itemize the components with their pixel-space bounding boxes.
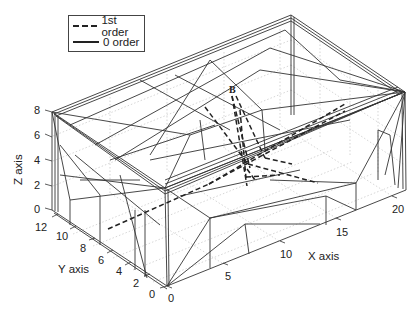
3d-plot: B 0 5 10 15 20 0 2 4 6 8 10 12 0	[0, 0, 419, 316]
solid-line-swatch	[73, 41, 99, 43]
x-tick: 15	[336, 226, 348, 238]
z-tick: 0	[34, 203, 40, 215]
z-tick: 2	[34, 179, 40, 191]
annotation-b: B	[229, 84, 236, 95]
y-tick: 0	[149, 288, 155, 300]
y-tick: 12	[35, 221, 47, 233]
z-tick-labels: 0 2 4 6 8	[34, 104, 40, 215]
legend-item-zero-order: 0 order	[73, 34, 139, 50]
x-tick: 10	[280, 248, 292, 260]
y-tick: 10	[56, 230, 68, 242]
grid-lines	[53, 28, 405, 282]
legend: 1st order 0 order	[68, 15, 145, 52]
x-axis-label: X axis	[308, 250, 340, 262]
x-tick: 0	[168, 292, 174, 304]
z-tick: 6	[34, 129, 40, 141]
z-tick: 4	[34, 154, 40, 166]
y-axis-label: Y axis	[58, 263, 89, 275]
x-tick: 5	[225, 270, 231, 282]
y-tick: 4	[116, 265, 122, 277]
x-tick-labels: 0 5 10 15 20	[168, 203, 404, 304]
y-tick: 2	[133, 277, 139, 289]
y-tick: 8	[80, 242, 86, 254]
first-order-paths	[108, 96, 345, 229]
y-tick: 6	[98, 254, 104, 266]
dashed-line-swatch	[73, 25, 97, 27]
z-tick: 8	[34, 104, 40, 116]
y-tick-labels: 0 2 4 6 8 10 12	[35, 221, 155, 300]
legend-label: 0 order	[103, 36, 139, 48]
legend-item-first-order: 1st order	[73, 18, 144, 34]
z-axis-label: Z axis	[12, 154, 24, 185]
zero-order-mesh	[52, 15, 406, 289]
x-tick: 20	[392, 203, 404, 215]
